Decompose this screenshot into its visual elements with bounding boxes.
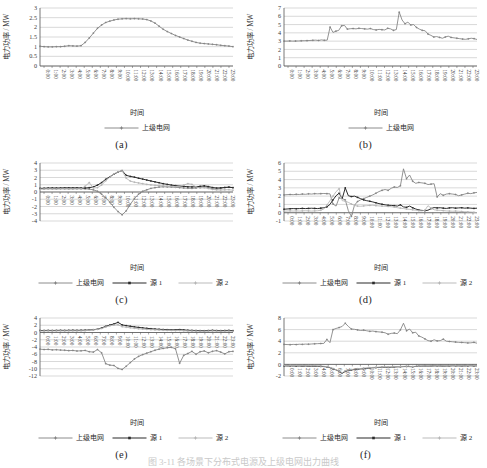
x-tick-label: 16:00	[174, 336, 180, 348]
legend-label: 源 1	[394, 278, 407, 287]
series-e-1	[39, 346, 234, 370]
legend-item-c-3[interactable]: 源 2	[179, 278, 229, 287]
x-tick-label: 15:00	[410, 368, 416, 380]
x-tick-label: 1:00	[297, 368, 303, 378]
axes-d	[284, 163, 477, 221]
y-tick-label: 1	[34, 43, 37, 50]
y-tick-label: 3	[278, 184, 281, 191]
x-tick-label: 7:00	[345, 70, 351, 80]
x-tick-label: 23:00	[230, 336, 236, 348]
x-tick-label: 1:00	[53, 196, 59, 206]
y-tick-label: -4	[32, 343, 37, 350]
panel-caption-d: (d)	[244, 294, 487, 305]
y-tick-label: -2	[276, 372, 281, 379]
x-tick-label: 5:00	[329, 216, 335, 226]
gridlines-a: 00.511.522.53	[29, 4, 233, 69]
chart-panel-a: 00.511.522.530:001:002:003:004:005:006:0…	[0, 0, 243, 155]
x-tick-label: 22:00	[466, 70, 472, 82]
x-tick-label: 21:00	[214, 336, 220, 348]
x-tick-label: 2:00	[305, 368, 311, 378]
y-tick-label: 2.5	[29, 14, 37, 21]
x-tick-label: 16:00	[418, 368, 424, 380]
x-tick-label: 17:00	[426, 216, 432, 228]
legend-item-e-1[interactable]: 上级电网	[39, 433, 105, 442]
x-tick-label: 20:00	[450, 368, 456, 380]
y-axis-title: 电力功率 / MW	[2, 168, 11, 215]
chart-svg-d: -101234560:001:002:003:004:005:006:007:0…	[244, 155, 487, 310]
x-tick-label: 9:00	[361, 216, 367, 226]
x-tick-label: 14:00	[402, 368, 408, 380]
legend-d: 上级电网源 1源 2	[283, 278, 473, 287]
x-tick-label: 6:00	[93, 70, 99, 80]
x-axis-a: 0:001:002:003:004:005:006:007:008:009:00…	[44, 66, 236, 82]
series-c-2	[39, 170, 234, 189]
legend-label: 上级电网	[386, 123, 414, 132]
x-tick-label: 21:00	[214, 196, 220, 208]
y-axis-title: 电力功率 / MW	[246, 323, 255, 370]
legend-label: 上级电网	[142, 123, 170, 132]
legend-item-d-2[interactable]: 源 1	[357, 278, 407, 287]
x-tick-label: 15:00	[410, 70, 416, 82]
y-tick-label: 3	[34, 4, 37, 11]
y-axis-title: 电力功率 / MW	[246, 168, 255, 215]
x-tick-label: 6:00	[93, 196, 99, 206]
x-tick-label: 14:00	[402, 70, 408, 82]
legend-item-f-3[interactable]: 源 2	[423, 433, 473, 442]
y-tick-label: 0	[278, 62, 281, 69]
x-tick-label: 10:00	[369, 70, 375, 82]
x-tick-label: 10:00	[125, 70, 131, 82]
legend-item-b-1[interactable]: 上级电网	[349, 123, 415, 132]
x-tick-label: 3:00	[69, 70, 75, 80]
y-axis-title: 电力功率 / MW	[2, 323, 11, 370]
y-axis-title: 电力功率 / MW	[2, 13, 11, 60]
legend-item-d-3[interactable]: 源 2	[423, 278, 473, 287]
legend-item-c-2[interactable]: 源 1	[113, 278, 163, 287]
x-tick-label: 8:00	[109, 70, 115, 80]
x-tick-label: 10:00	[125, 196, 131, 208]
legend-item-f-2[interactable]: 源 1	[357, 433, 407, 442]
y-tick-label: -4	[32, 217, 37, 224]
legend-item-c-1[interactable]: 上级电网	[39, 278, 105, 287]
x-tick-label: 19:00	[198, 70, 204, 82]
chart-svg-b: 012345670:001:002:003:004:005:006:007:00…	[244, 0, 487, 155]
x-tick-label: 4:00	[321, 70, 327, 80]
x-tick-label: 19:00	[442, 216, 448, 228]
x-tick-label: 11:00	[133, 336, 139, 348]
x-tick-label: 3:00	[313, 216, 319, 226]
x-axis-e: 0:001:002:003:004:005:006:007:008:009:00…	[44, 333, 236, 349]
legend-item-e-3[interactable]: 源 2	[179, 433, 229, 442]
legend-item-d-1[interactable]: 上级电网	[283, 278, 349, 287]
y-tick-label: 3	[278, 37, 281, 44]
x-tick-label: 5:00	[85, 196, 91, 206]
x-tick-label: 9:00	[361, 368, 367, 378]
y-tick-label: 5	[278, 167, 281, 174]
x-tick-label: 20:00	[450, 70, 456, 82]
x-tick-label: 4:00	[321, 368, 327, 378]
legend-label: 源 2	[460, 278, 473, 287]
x-tick-label: 23:00	[230, 70, 236, 82]
y-tick-label: -10	[29, 365, 37, 372]
y-tick-label: -2	[32, 203, 37, 210]
y-tick-label: 4	[278, 176, 281, 183]
x-tick-label: 8:00	[109, 336, 115, 346]
x-tick-label: 12:00	[385, 70, 391, 82]
x-tick-label: 22:00	[222, 196, 228, 208]
x-tick-label: 16:00	[418, 216, 424, 228]
legend-item-e-2[interactable]: 源 1	[113, 433, 163, 442]
y-tick-label: -1	[32, 195, 37, 202]
x-tick-label: 22:00	[466, 368, 472, 380]
legend-item-f-1[interactable]: 上级电网	[283, 433, 349, 442]
x-tick-label: 11:00	[133, 196, 139, 208]
chart-svg-c: -4-3-2-1012340:001:002:003:004:005:006:0…	[0, 155, 243, 310]
y-tick-label: -8	[32, 358, 37, 365]
x-tick-label: 15:00	[410, 216, 416, 228]
y-tick-label: -2	[32, 336, 37, 343]
x-tick-label: 10:00	[369, 368, 375, 380]
x-tick-label: 7:00	[101, 336, 107, 346]
chart-panel-d: -101234560:001:002:003:004:005:006:007:0…	[244, 155, 487, 310]
x-axis-title: 时间	[374, 108, 388, 117]
x-tick-label: 8:00	[353, 216, 359, 226]
x-tick-label: 20:00	[450, 216, 456, 228]
y-tick-label: 0.5	[29, 52, 37, 59]
legend-item-a-1[interactable]: 上级电网	[105, 123, 171, 132]
